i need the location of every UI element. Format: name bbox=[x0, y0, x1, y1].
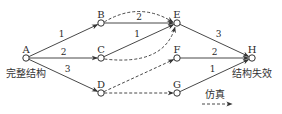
node-C-circle-icon bbox=[98, 55, 104, 61]
edge-D-F-dashed bbox=[104, 60, 174, 92]
edge-label-E-H: 3 bbox=[216, 29, 222, 39]
node-B-circle-icon bbox=[98, 20, 104, 26]
legend-label: 仿真 bbox=[205, 88, 225, 100]
nodes: ABCDEFGH bbox=[21, 9, 256, 96]
node-C-label: C bbox=[97, 44, 105, 55]
node-F-label: F bbox=[174, 44, 181, 55]
start-caption: 完整结构 bbox=[6, 67, 46, 79]
edge-label-A-C: 2 bbox=[61, 47, 67, 57]
node-F-circle-icon bbox=[174, 55, 180, 61]
node-B-label: B bbox=[97, 9, 104, 20]
legend: 仿真 bbox=[202, 88, 232, 104]
node-G-label: G bbox=[173, 79, 181, 90]
edge-labels: 12321321 bbox=[59, 12, 222, 74]
node-E-label: E bbox=[173, 9, 180, 20]
state-transition-diagram: 12321321 ABCDEFGH 完整结构 结构失效 仿真 bbox=[0, 0, 282, 114]
edge-label-A-B: 1 bbox=[59, 29, 65, 39]
node-A-label: A bbox=[21, 44, 30, 55]
node-D-circle-icon bbox=[98, 90, 104, 96]
edge-label-C-E: 1 bbox=[134, 29, 140, 39]
node-E-circle-icon bbox=[174, 20, 180, 26]
node-H-label: H bbox=[248, 44, 257, 55]
edge-label-B-E: 2 bbox=[136, 12, 142, 22]
node-G-circle-icon bbox=[174, 90, 180, 96]
node-A-circle-icon bbox=[23, 55, 29, 61]
node-D-label: D bbox=[97, 79, 105, 90]
edge-label-G-H: 1 bbox=[210, 64, 216, 74]
edge-label-F-H: 2 bbox=[212, 47, 218, 57]
edge-label-A-D: 3 bbox=[65, 64, 71, 74]
end-caption: 结构失效 bbox=[232, 67, 272, 79]
node-H-circle-icon bbox=[249, 55, 255, 61]
